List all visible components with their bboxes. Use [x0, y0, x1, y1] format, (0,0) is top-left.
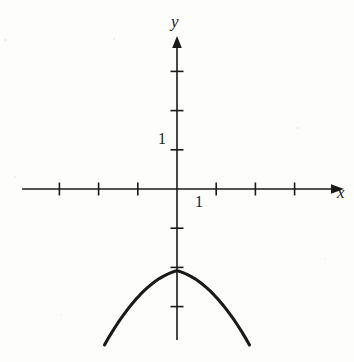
x-axis-label: x — [337, 184, 345, 201]
y-axis-label: y — [171, 13, 179, 30]
y-axis-tick-label-1: 1 — [158, 131, 166, 147]
graph-canvas — [0, 0, 354, 362]
x-axis-tick-label-1: 1 — [195, 194, 203, 210]
graph-figure: y x 1 1 — [0, 0, 354, 362]
y-axis-arrow-icon — [172, 36, 182, 48]
